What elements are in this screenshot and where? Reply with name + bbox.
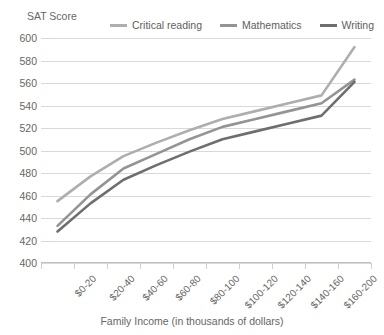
y-axis-tick-label: 540 xyxy=(19,100,37,112)
x-axis-tick-label: $60-80 xyxy=(173,273,203,303)
x-axis-tick-label: $80-100 xyxy=(207,273,241,307)
legend-item-2[interactable]: Writing xyxy=(320,20,374,31)
series-line-2 xyxy=(58,82,355,232)
x-axis-tick-labels: $0-20$20-40$40-60$60-80$80-100$100-120$1… xyxy=(0,263,384,323)
x-axis-tick-label: $20-40 xyxy=(107,273,137,303)
series-line-0 xyxy=(58,47,355,201)
series-lines xyxy=(41,38,371,263)
x-axis-tick-label: $100-120 xyxy=(242,273,280,311)
y-axis-tick-label: 420 xyxy=(19,235,37,247)
y-axis-tick-label: 520 xyxy=(19,122,37,134)
x-axis-title: Family Income (in thousands of dollars) xyxy=(0,315,384,327)
legend-swatch-icon xyxy=(220,24,237,27)
legend-label: Mathematics xyxy=(242,20,302,31)
x-axis-tick-label: $140-160 xyxy=(308,273,346,311)
x-axis-tick-label: $160-200 xyxy=(341,273,379,311)
y-axis-tick-label: 480 xyxy=(19,167,37,179)
legend-swatch-icon xyxy=(320,24,337,27)
sat-score-line-chart: SAT Score Critical readingMathematicsWri… xyxy=(0,0,384,335)
chart-legend: Critical readingMathematicsWriting xyxy=(110,20,374,31)
legend-label: Critical reading xyxy=(132,20,202,31)
legend-item-1[interactable]: Mathematics xyxy=(220,20,302,31)
x-axis-tick-label: $0-20 xyxy=(72,273,98,299)
x-axis-tick-label: $40-60 xyxy=(140,273,170,303)
plot-area xyxy=(41,38,371,263)
legend-item-0[interactable]: Critical reading xyxy=(110,20,202,31)
y-axis-tick-label: 580 xyxy=(19,55,37,67)
x-axis-tick-label: $120-140 xyxy=(275,273,313,311)
y-axis-tick-label: 460 xyxy=(19,190,37,202)
y-axis-tick-label: 600 xyxy=(19,32,37,44)
legend-swatch-icon xyxy=(110,24,127,27)
series-line-1 xyxy=(58,80,355,226)
y-axis-tick-label: 440 xyxy=(19,212,37,224)
y-axis-tick-label: 500 xyxy=(19,145,37,157)
y-axis-tick-label: 560 xyxy=(19,77,37,89)
legend-label: Writing xyxy=(342,20,374,31)
